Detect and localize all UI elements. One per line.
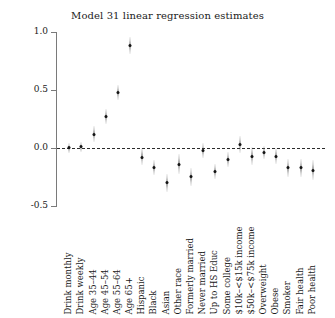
- y-tick-label: 1.0: [8, 27, 48, 36]
- estimate-marker: [263, 151, 266, 154]
- x-tick-label: Drink monthly: [64, 252, 73, 314]
- estimate-marker: [202, 149, 205, 152]
- data-point: [130, 37, 131, 53]
- x-tick-label: Age 55–64: [112, 269, 121, 314]
- data-point: [239, 136, 240, 154]
- data-point: [203, 143, 204, 158]
- x-tick-label: Formerly married: [186, 238, 195, 314]
- data-point: [69, 143, 70, 154]
- estimate-marker: [129, 44, 132, 47]
- x-axis-labels: Drink monthlyDrink weeklyAge 35–44Age 45…: [57, 210, 325, 314]
- regression-estimates-figure: Model 31 linear regression estimates 1.0…: [0, 0, 335, 318]
- x-tick-label: Never married: [198, 250, 207, 314]
- x-tick-label: Smoker: [283, 281, 292, 314]
- x-tick-label: Poor health: [307, 264, 316, 314]
- x-tick-label: $10k–<$15k income: [234, 226, 243, 314]
- data-point: [178, 154, 179, 174]
- x-tick-label: Up to HS Educ: [210, 250, 219, 314]
- x-tick-label: Age 45–54: [100, 269, 109, 314]
- plot-area: [57, 32, 325, 206]
- estimate-marker: [190, 175, 193, 178]
- data-point: [191, 168, 192, 186]
- data-point: [264, 146, 265, 159]
- estimate-marker: [238, 143, 241, 146]
- estimate-marker: [275, 155, 278, 158]
- data-point: [166, 174, 167, 192]
- data-point: [288, 159, 289, 177]
- x-tick-label: Obese: [271, 287, 280, 314]
- estimate-marker: [250, 155, 253, 158]
- data-point: [93, 126, 94, 141]
- estimate-marker: [104, 115, 107, 118]
- estimate-marker: [68, 146, 71, 149]
- data-point: [215, 164, 216, 179]
- y-tick-label: 0.5: [8, 85, 48, 94]
- estimate-marker: [80, 145, 83, 148]
- y-tick-label: -0.5: [8, 201, 48, 210]
- data-point: [227, 152, 228, 167]
- x-tick-label: Hispanic: [137, 276, 146, 314]
- data-point: [276, 148, 277, 163]
- x-tick-label: Other race: [173, 267, 182, 314]
- data-point: [300, 159, 301, 177]
- estimate-marker: [226, 158, 229, 161]
- x-tick-label: Asian: [161, 290, 170, 314]
- data-point: [142, 148, 143, 164]
- zero-reference-line: [57, 148, 325, 149]
- data-point: [117, 85, 118, 100]
- estimate-marker: [92, 133, 95, 136]
- estimate-marker: [287, 166, 290, 169]
- estimate-marker: [214, 170, 217, 173]
- x-tick-label: Age 65+: [125, 277, 134, 314]
- data-point: [81, 142, 82, 153]
- y-tick-label: 0.0: [8, 143, 48, 152]
- estimate-marker: [141, 156, 144, 159]
- estimate-marker: [165, 181, 168, 184]
- data-point: [154, 160, 155, 175]
- estimate-marker: [153, 166, 156, 169]
- estimate-marker: [299, 166, 302, 169]
- x-tick-label: Fair health: [295, 267, 304, 314]
- x-tick-label: Drink weekly: [76, 257, 85, 314]
- x-tick-label: Age 35–44: [88, 269, 97, 314]
- x-tick-label: Black: [149, 290, 158, 314]
- estimate-marker: [116, 91, 119, 94]
- x-tick-label: Some college: [222, 256, 231, 314]
- chart-title: Model 31 linear regression estimates: [0, 10, 335, 21]
- y-tick-mark: [51, 206, 57, 207]
- data-point: [312, 160, 313, 180]
- x-tick-label: $50k–<$75k income: [246, 226, 255, 314]
- x-tick-label: Overweight: [259, 264, 268, 314]
- data-point: [105, 109, 106, 124]
- data-point: [251, 147, 252, 165]
